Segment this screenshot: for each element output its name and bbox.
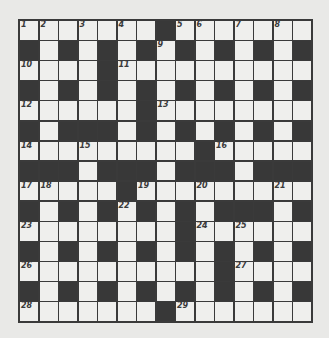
crossword-cell[interactable] <box>40 202 58 221</box>
crossword-cell[interactable] <box>293 142 311 161</box>
crossword-cell[interactable] <box>118 262 136 281</box>
crossword-cell[interactable] <box>79 222 97 241</box>
crossword-cell[interactable] <box>176 142 194 161</box>
crossword-cell[interactable] <box>98 21 116 40</box>
crossword-cell[interactable] <box>293 182 311 201</box>
crossword-cell[interactable] <box>40 61 58 80</box>
crossword-cell[interactable] <box>59 262 77 281</box>
crossword-cell[interactable] <box>40 81 58 100</box>
crossword-cell[interactable] <box>137 61 155 80</box>
crossword-cell[interactable]: 17 <box>20 182 38 201</box>
crossword-cell[interactable] <box>79 81 97 100</box>
crossword-cell[interactable]: 8 <box>274 21 292 40</box>
crossword-cell[interactable] <box>196 41 214 60</box>
crossword-cell[interactable] <box>176 182 194 201</box>
crossword-cell[interactable] <box>118 222 136 241</box>
crossword-cell[interactable] <box>215 101 233 120</box>
crossword-cell[interactable] <box>118 81 136 100</box>
crossword-cell[interactable] <box>118 282 136 301</box>
crossword-cell[interactable] <box>98 262 116 281</box>
crossword-cell[interactable]: 18 <box>40 182 58 201</box>
crossword-cell[interactable]: 25 <box>235 222 253 241</box>
crossword-cell[interactable]: 28 <box>20 302 38 321</box>
crossword-cell[interactable]: 7 <box>235 21 253 40</box>
crossword-cell[interactable] <box>79 282 97 301</box>
crossword-cell[interactable]: 9 <box>157 41 175 60</box>
crossword-cell[interactable] <box>196 202 214 221</box>
crossword-cell[interactable] <box>274 142 292 161</box>
crossword-cell[interactable] <box>59 101 77 120</box>
crossword-cell[interactable] <box>79 162 97 181</box>
crossword-cell[interactable] <box>118 122 136 141</box>
crossword-cell[interactable] <box>40 282 58 301</box>
crossword-cell[interactable] <box>274 222 292 241</box>
crossword-cell[interactable] <box>274 282 292 301</box>
crossword-cell[interactable] <box>118 101 136 120</box>
crossword-cell[interactable] <box>215 61 233 80</box>
crossword-cell[interactable] <box>157 282 175 301</box>
crossword-cell[interactable] <box>254 222 272 241</box>
crossword-cell[interactable] <box>196 302 214 321</box>
crossword-cell[interactable] <box>274 101 292 120</box>
crossword-cell[interactable] <box>196 81 214 100</box>
crossword-cell[interactable] <box>274 262 292 281</box>
crossword-cell[interactable] <box>59 21 77 40</box>
crossword-cell[interactable] <box>40 222 58 241</box>
crossword-cell[interactable] <box>59 142 77 161</box>
crossword-cell[interactable]: 24 <box>196 222 214 241</box>
crossword-cell[interactable] <box>118 242 136 261</box>
crossword-cell[interactable] <box>235 182 253 201</box>
crossword-cell[interactable] <box>215 302 233 321</box>
crossword-cell[interactable]: 13 <box>157 101 175 120</box>
crossword-cell[interactable]: 1 <box>20 21 38 40</box>
crossword-cell[interactable]: 20 <box>196 182 214 201</box>
crossword-cell[interactable] <box>98 101 116 120</box>
crossword-cell[interactable] <box>274 302 292 321</box>
crossword-cell[interactable] <box>293 21 311 40</box>
crossword-cell[interactable] <box>40 242 58 261</box>
crossword-cell[interactable]: 4 <box>118 21 136 40</box>
crossword-cell[interactable] <box>157 202 175 221</box>
crossword-cell[interactable]: 16 <box>215 142 233 161</box>
crossword-cell[interactable] <box>196 262 214 281</box>
crossword-cell[interactable]: 10 <box>20 61 38 80</box>
crossword-cell[interactable] <box>215 21 233 40</box>
crossword-cell[interactable]: 19 <box>137 182 155 201</box>
crossword-cell[interactable]: 3 <box>79 21 97 40</box>
crossword-cell[interactable] <box>137 142 155 161</box>
crossword-cell[interactable] <box>157 162 175 181</box>
crossword-cell[interactable] <box>40 142 58 161</box>
crossword-cell[interactable] <box>274 41 292 60</box>
crossword-cell[interactable] <box>274 242 292 261</box>
crossword-cell[interactable] <box>137 222 155 241</box>
crossword-cell[interactable] <box>196 122 214 141</box>
crossword-cell[interactable] <box>79 101 97 120</box>
crossword-cell[interactable] <box>235 242 253 261</box>
crossword-cell[interactable] <box>235 81 253 100</box>
crossword-cell[interactable] <box>176 61 194 80</box>
crossword-cell[interactable] <box>59 302 77 321</box>
crossword-cell[interactable] <box>157 61 175 80</box>
crossword-cell[interactable] <box>293 262 311 281</box>
crossword-cell[interactable] <box>98 142 116 161</box>
crossword-cell[interactable] <box>274 122 292 141</box>
crossword-cell[interactable] <box>98 222 116 241</box>
crossword-cell[interactable] <box>235 142 253 161</box>
crossword-cell[interactable]: 5 <box>176 21 194 40</box>
crossword-cell[interactable] <box>196 282 214 301</box>
crossword-cell[interactable] <box>293 302 311 321</box>
crossword-cell[interactable] <box>293 222 311 241</box>
crossword-cell[interactable] <box>274 202 292 221</box>
crossword-cell[interactable] <box>59 222 77 241</box>
crossword-cell[interactable]: 26 <box>20 262 38 281</box>
crossword-cell[interactable] <box>157 242 175 261</box>
crossword-cell[interactable] <box>59 61 77 80</box>
crossword-cell[interactable] <box>118 41 136 60</box>
crossword-cell[interactable] <box>274 61 292 80</box>
crossword-cell[interactable] <box>79 262 97 281</box>
crossword-cell[interactable]: 23 <box>20 222 38 241</box>
crossword-cell[interactable] <box>79 61 97 80</box>
crossword-cell[interactable] <box>215 182 233 201</box>
crossword-cell[interactable] <box>235 61 253 80</box>
crossword-cell[interactable] <box>137 302 155 321</box>
